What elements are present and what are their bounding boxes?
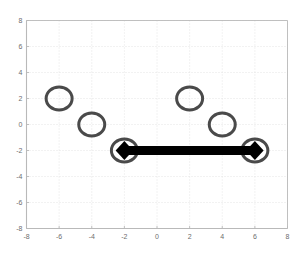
x-tick-label: 4 xyxy=(220,233,224,240)
link-diamond-marker[interactable] xyxy=(116,141,133,160)
y-tick-label: 4 xyxy=(19,69,23,76)
chart-figure: -8-6-4-202468-8-6-4-202468 xyxy=(0,0,306,254)
node-circle-marker[interactable] xyxy=(79,113,105,136)
x-tick-label: -8 xyxy=(23,233,29,240)
x-axis-tick-labels: -8-6-4-202468 xyxy=(23,233,289,240)
plot-canvas: -8-6-4-202468-8-6-4-202468 xyxy=(0,0,306,254)
link-diamond-marker[interactable] xyxy=(246,141,263,160)
y-tick-label: -4 xyxy=(16,173,22,180)
x-tick-label: 8 xyxy=(286,233,290,240)
x-tick-label: -6 xyxy=(56,233,62,240)
y-tick-label: 0 xyxy=(19,121,23,128)
x-tick-label: 6 xyxy=(253,233,257,240)
y-tick-label: 6 xyxy=(19,43,23,50)
y-tick-label: 8 xyxy=(19,17,23,24)
x-tick-label: -2 xyxy=(121,233,127,240)
y-tick-label: 2 xyxy=(19,95,23,102)
y-tick-label: -8 xyxy=(16,225,22,232)
x-tick-label: 2 xyxy=(188,233,192,240)
y-axis-tick-labels: -8-6-4-202468 xyxy=(16,17,22,232)
y-tick-label: -2 xyxy=(16,147,22,154)
grid-lines xyxy=(27,21,288,229)
x-tick-label: -4 xyxy=(89,233,95,240)
x-tick-label: 0 xyxy=(155,233,159,240)
y-tick-label: -6 xyxy=(16,199,22,206)
